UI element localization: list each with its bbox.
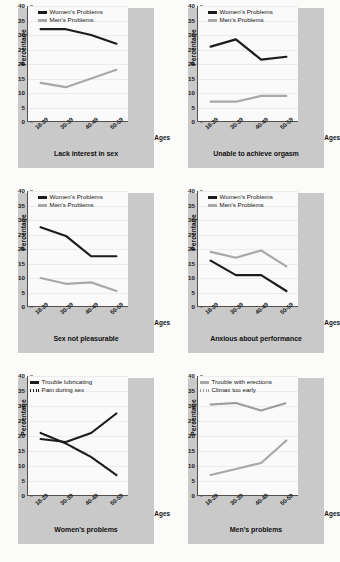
y-tick-label: 30 xyxy=(188,403,195,409)
series-line xyxy=(211,250,287,266)
y-tick-label: 35 xyxy=(188,388,195,394)
y-tick-label: 25 xyxy=(188,46,195,52)
y-tick-label: 20 xyxy=(18,61,25,67)
y-axis-ticks-1: 4035302520151050 xyxy=(175,2,195,118)
x-axis-label-0: Ages xyxy=(154,134,170,141)
y-tick-label: 15 xyxy=(188,260,195,266)
y-tick-label: 35 xyxy=(18,17,25,23)
y-tick-label: 30 xyxy=(18,32,25,38)
chart-title-4: Women's problems xyxy=(18,526,154,533)
chart-grid: Percentage 4035302520151050 Women's Prob… xyxy=(0,0,340,562)
y-tick-label: 30 xyxy=(18,217,25,223)
y-tick-label: 15 xyxy=(188,448,195,454)
y-axis-ticks-0: 4035302520151050 xyxy=(5,2,25,118)
y-tick-label: 5 xyxy=(22,478,25,484)
y-tick-label: 30 xyxy=(188,217,195,223)
x-axis-ticks-1: 18-2930-3940-4950-59 xyxy=(197,124,298,150)
legend-label: Men's Problems xyxy=(50,16,94,24)
series-line xyxy=(41,70,117,87)
legend-2: Women's ProblemsMen's Problems xyxy=(38,193,103,210)
legend-item: Women's Problems xyxy=(38,193,103,201)
y-tick-label: 25 xyxy=(188,418,195,424)
y-tick-label: 25 xyxy=(18,418,25,424)
legend-swatch xyxy=(38,204,47,207)
y-tick-label: 35 xyxy=(188,202,195,208)
x-axis-label-4: Ages xyxy=(154,510,170,517)
y-tick-label: 30 xyxy=(188,32,195,38)
series-line xyxy=(211,96,287,102)
y-tick-label: 0 xyxy=(192,304,195,310)
series-line xyxy=(41,278,117,291)
y-tick-label: 0 xyxy=(192,119,195,125)
series-line xyxy=(41,227,117,256)
y-tick-label: 10 xyxy=(188,275,195,281)
chart-title-3: Anxious about performance xyxy=(188,335,324,342)
legend-item: Women's Problems xyxy=(38,8,103,16)
legend-swatch xyxy=(38,11,47,14)
chart-title-5: Men's problems xyxy=(188,526,324,533)
legend-item: Men's Problems xyxy=(38,16,103,24)
series-line xyxy=(41,29,117,44)
chart-title-2: Sex not pleasurable xyxy=(18,335,154,342)
legend-swatch xyxy=(208,204,217,207)
y-tick-label: 35 xyxy=(18,202,25,208)
legend-label: Men's Problems xyxy=(220,201,264,209)
y-tick-label: 5 xyxy=(22,289,25,295)
y-tick-label: 20 xyxy=(18,433,25,439)
y-tick-label: 25 xyxy=(188,231,195,237)
legend-label: Men's Problems xyxy=(50,201,94,209)
x-axis-ticks-3: 18-2930-3940-4950-59 xyxy=(197,309,298,335)
y-tick-label: 30 xyxy=(18,403,25,409)
legend-5: Trouble with erectionsClimax too early xyxy=(200,378,272,395)
chart-title-1: Unable to achieve orgasm xyxy=(188,150,324,157)
y-tick-label: 20 xyxy=(188,61,195,67)
chart-cell-2: Percentage 4035302520151050 Women's Prob… xyxy=(0,185,170,370)
legend-label: Trouble lubricating xyxy=(42,378,93,386)
legend-swatch xyxy=(208,11,217,14)
legend-swatch xyxy=(30,389,39,392)
legend-swatch xyxy=(200,381,209,384)
chart-cell-1: Percentage 4035302520151050 Women's Prob… xyxy=(170,0,340,185)
x-axis-ticks-2: 18-2930-3940-4950-59 xyxy=(27,309,128,335)
chart-cell-5: Percentage 4035302520151050 Trouble with… xyxy=(170,370,340,562)
y-tick-label: 0 xyxy=(192,493,195,499)
legend-item: Climax too early xyxy=(200,386,272,394)
y-tick-label: 15 xyxy=(18,448,25,454)
series-line xyxy=(211,261,287,291)
y-axis-ticks-2: 4035302520151050 xyxy=(5,187,25,303)
y-tick-label: 10 xyxy=(188,90,195,96)
y-tick-label: 35 xyxy=(18,388,25,394)
x-axis-label-2: Ages xyxy=(154,319,170,326)
legend-label: Women's Problems xyxy=(50,8,103,16)
legend-4: Trouble lubricatingPain during sex xyxy=(30,378,92,395)
y-tick-label: 20 xyxy=(188,433,195,439)
legend-item: Trouble lubricating xyxy=(30,378,92,386)
y-tick-label: 10 xyxy=(18,90,25,96)
y-tick-label: 5 xyxy=(192,104,195,110)
y-tick-label: 25 xyxy=(18,231,25,237)
y-tick-label: 15 xyxy=(188,75,195,81)
x-axis-ticks-4: 18-2930-3940-4950-59 xyxy=(27,500,128,526)
x-axis-label-5: Ages xyxy=(324,510,340,517)
series-line xyxy=(211,403,287,411)
x-axis-label-1: Ages xyxy=(324,134,340,141)
y-tick-label: 10 xyxy=(188,463,195,469)
y-tick-label: 5 xyxy=(192,289,195,295)
y-axis-ticks-5: 4035302520151050 xyxy=(175,372,195,488)
legend-item: Men's Problems xyxy=(208,16,273,24)
chart-title-0: Lack interest in sex xyxy=(18,150,154,157)
legend-label: Climax too early xyxy=(212,386,256,394)
legend-swatch xyxy=(200,389,209,392)
legend-item: Women's Problems xyxy=(208,8,273,16)
x-axis-ticks-5: 18-2930-3940-4950-59 xyxy=(197,500,298,526)
legend-item: Men's Problems xyxy=(208,201,273,209)
y-tick-label: 0 xyxy=(22,304,25,310)
series-line xyxy=(211,39,287,59)
legend-0: Women's ProblemsMen's Problems xyxy=(38,8,103,25)
y-tick-label: 10 xyxy=(18,275,25,281)
y-tick-label: 10 xyxy=(18,463,25,469)
chart-cell-3: Percentage 4035302520151050 Women's Prob… xyxy=(170,185,340,370)
y-tick-label: 40 xyxy=(188,188,195,194)
legend-swatch xyxy=(208,196,217,199)
x-axis-ticks-0: 18-2930-3940-4950-59 xyxy=(27,124,128,150)
